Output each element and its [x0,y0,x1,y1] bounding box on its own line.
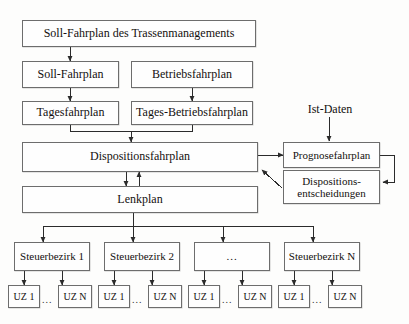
node-steuerbezirk-n[interactable]: Steuerbezirk N [284,242,360,271]
label-uz-1-ellipsis: ... [42,294,53,305]
node-label: Steuerbezirk 1 [20,250,84,262]
node-label: Prognosefahrplan [293,149,371,161]
node-uz-2-first[interactable]: UZ 1 [98,285,130,308]
node-uz-4-first[interactable]: UZ 1 [278,285,310,308]
node-label: Soll-Fahrplan [38,68,104,81]
label-text: ... [42,294,53,305]
node-label-line-1: Dispositions- [302,175,361,187]
node-dispositionsfahrplan[interactable]: Dispositionsfahrplan [22,142,258,172]
node-label: Lenkplan [117,193,162,206]
node-soll-fahrplan-trassenmanagement[interactable]: Soll-Fahrplan des Trassenmanagements [22,20,256,47]
label-text: Ist-Daten [308,102,353,116]
node-label: UZ 1 [194,291,215,302]
node-label: UZ N [243,291,266,302]
label-text: ... [312,294,323,305]
node-prognosefahrplan[interactable]: Prognosefahrplan [283,142,380,168]
node-steuerbezirk-1[interactable]: Steuerbezirk 1 [14,242,90,271]
node-label-line-2: entscheidungen [297,187,365,199]
node-label: Tagesfahrplan [37,106,105,119]
node-uz-1-first[interactable]: UZ 1 [8,285,40,308]
node-uz-2-last[interactable]: UZ N [148,285,182,308]
node-steuerbezirk-ellipsis[interactable]: ... [194,242,270,271]
node-label: UZ 1 [284,291,305,302]
node-label: UZ N [333,291,356,302]
node-label: Tages-Betriebsfahrplan [136,106,248,119]
node-uz-3-last[interactable]: UZ N [238,285,272,308]
edge-tagesfahrplan-merge [70,125,131,131]
node-label: Steuerbezirk 2 [110,250,174,262]
node-tages-betriebsfahrplan[interactable]: Tages-Betriebsfahrplan [131,101,253,125]
label-text: ... [222,294,233,305]
node-label: Dispositionsfahrplan [90,150,190,163]
node-label: Steuerbezirk N [289,250,355,262]
edge-prognose-loop [380,155,394,182]
node-uz-3-first[interactable]: UZ 1 [188,285,220,308]
edge-tagesbetriebs-merge [131,125,192,131]
node-label: ... [226,250,237,262]
node-soll-fahrplan[interactable]: Soll-Fahrplan [22,61,119,88]
label-uz-4-ellipsis: ... [312,294,323,305]
node-label: UZ N [153,291,176,302]
node-uz-1-last[interactable]: UZ N [58,285,92,308]
label-text: ... [132,294,143,305]
diagram-canvas: Soll-Fahrplan des Trassenmanagements Sol… [0,0,409,324]
node-betriebsfahrplan[interactable]: Betriebsfahrplan [131,61,253,88]
node-label: UZ 1 [14,291,35,302]
node-lenkplan[interactable]: Lenkplan [22,186,258,213]
label-uz-3-ellipsis: ... [222,294,233,305]
node-uz-4-last[interactable]: UZ N [328,285,362,308]
node-label: UZ 1 [104,291,125,302]
node-label: Betriebsfahrplan [152,68,232,81]
node-tagesfahrplan[interactable]: Tagesfahrplan [22,101,119,125]
node-label: Soll-Fahrplan des Trassenmanagements [44,27,235,40]
label-ist-daten: Ist-Daten [294,102,366,117]
edge-entscheidungen-to-dispositionsfahrplan [262,170,282,188]
node-dispositions-entscheidungen[interactable]: Dispositions- entscheidungen [283,170,380,204]
node-steuerbezirk-2[interactable]: Steuerbezirk 2 [104,242,180,271]
node-label: UZ N [63,291,86,302]
label-uz-2-ellipsis: ... [132,294,143,305]
